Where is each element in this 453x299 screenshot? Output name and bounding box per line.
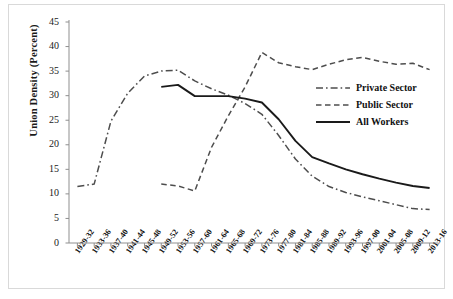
axis-lines (66, 20, 439, 247)
legend-entry-all-workers: All Workers (315, 113, 417, 130)
legend-label-private-sector: Private Sector (356, 82, 417, 93)
legend-label-public-sector: Public Sector (356, 99, 413, 110)
legend-entry-private-sector: Private Sector (315, 79, 417, 96)
legend-entry-public-sector: Public Sector (315, 96, 417, 113)
chart-figure: Union Density (Percent) 0510152025303540… (0, 0, 453, 299)
legend-label-all-workers: All Workers (356, 116, 408, 127)
all-workers-key (315, 116, 351, 128)
data-series (77, 52, 429, 209)
private-sector-key (315, 82, 351, 94)
chart-legend: Private Sector Public Sector All Workers (315, 79, 417, 130)
plot-canvas (0, 0, 453, 299)
public-sector-key (315, 99, 351, 111)
